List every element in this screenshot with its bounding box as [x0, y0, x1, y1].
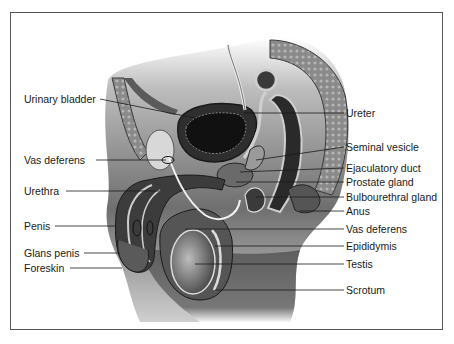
label-anus: Anus: [346, 205, 370, 217]
label-ejaculatory-duct: Ejaculatory duct: [346, 162, 421, 174]
label-vas-deferens-right: Vas deferens: [346, 223, 407, 235]
label-prostate-gland: Prostate gland: [346, 176, 414, 188]
label-glans-penis: Glans penis: [24, 247, 79, 259]
label-epididymis: Epididymis: [346, 240, 397, 252]
label-urethra: Urethra: [24, 185, 59, 197]
pubic-symphysis: [146, 130, 174, 170]
label-scrotum: Scrotum: [346, 284, 385, 296]
label-bulbourethral-gland: Bulbourethral gland: [346, 191, 437, 203]
label-testis: Testis: [346, 258, 373, 270]
testis: [171, 230, 215, 294]
label-ureter: Ureter: [346, 107, 375, 119]
label-foreskin: Foreskin: [24, 262, 64, 274]
label-vas-deferens-left: Vas deferens: [24, 154, 85, 166]
label-penis: Penis: [24, 220, 50, 232]
label-seminal-vesicle: Seminal vesicle: [346, 141, 419, 153]
label-urinary-bladder: Urinary bladder: [24, 93, 96, 105]
